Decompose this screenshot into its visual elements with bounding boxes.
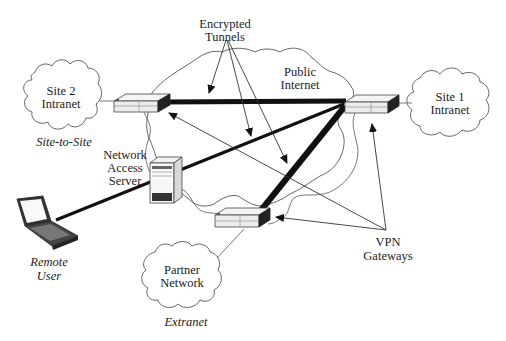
vpn-gateways-label-line2: Gateways <box>363 249 412 263</box>
site1-vpn-gateway-icon[interactable] <box>345 95 399 113</box>
partner-network-label-line1: Partner <box>164 263 201 277</box>
vpn-gateways-label-line1: VPN <box>375 235 400 249</box>
site1-intranet-label-line2: Intranet <box>431 103 470 117</box>
partner-network-link <box>217 229 244 258</box>
network-access-server-icon[interactable] <box>150 157 182 203</box>
nas-label-line1: Network <box>103 148 147 162</box>
site2-intranet-label-line2: Intranet <box>42 97 81 111</box>
vpn-label-arrow-site1 <box>372 124 386 230</box>
extranet-label: Extranet <box>163 315 208 329</box>
encrypted-tunnels-label-line2: Tunnels <box>205 30 245 44</box>
partner-network-label-line2: Network <box>160 276 204 290</box>
encrypted-tunnels-label-line1: Encrypted <box>199 17 251 31</box>
remote-user-label-line2: User <box>37 269 61 283</box>
public-internet-label-line2: Internet <box>281 78 320 92</box>
tunnel-site2-to-site1 <box>163 101 346 102</box>
site2-intranet-label-line1: Site 2 <box>47 84 76 98</box>
site-to-site-label: Site-to-Site <box>36 135 92 149</box>
site2-vpn-gateway-icon[interactable] <box>114 94 170 112</box>
site1-intranet-label-line1: Site 1 <box>436 90 465 104</box>
vpn-label-arrow-partner <box>276 217 386 230</box>
vpn-network-diagram: Encrypted Tunnels Public Internet Site 2… <box>0 0 506 341</box>
remote-user-label-line1: Remote <box>29 255 68 269</box>
public-internet-label-line1: Public <box>284 65 316 79</box>
partner-vpn-gateway-icon[interactable] <box>215 208 270 227</box>
nas-label-line3: Server <box>109 174 142 188</box>
remote-user-laptop-icon[interactable] <box>17 196 78 250</box>
nas-label-line2: Access <box>107 161 143 175</box>
